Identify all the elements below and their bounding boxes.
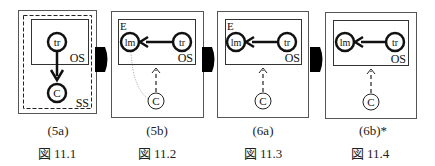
sublabel-5a: (5a) — [13, 124, 103, 137]
panel-6b: lm tr OS C — [326, 13, 417, 119]
svg-text:C: C — [367, 96, 374, 108]
svg-text:C: C — [152, 95, 159, 107]
diagram-canvas: tr OS C SS E lm tr OS C E lm tr — [0, 0, 435, 166]
figure-caption-11-4: 図 11.4 — [325, 147, 415, 160]
svg-text:SS: SS — [76, 96, 89, 110]
transition-arrow-3 — [310, 47, 323, 72]
panel-5b: E lm tr OS C — [112, 12, 204, 118]
svg-text:lm: lm — [340, 37, 351, 48]
svg-text:lm: lm — [125, 37, 136, 48]
svg-text:C: C — [53, 87, 60, 99]
svg-text:C: C — [259, 95, 266, 107]
figure-caption-11-3: 図 11.3 — [218, 147, 308, 160]
sublabel-6a: (6a) — [218, 124, 308, 137]
svg-text:OS: OS — [391, 52, 406, 66]
svg-text:tr: tr — [179, 37, 186, 48]
svg-text:OS: OS — [285, 51, 300, 65]
transition-arrow-1 — [95, 47, 108, 72]
figure-caption-11-2: 図 11.2 — [112, 147, 202, 160]
svg-text:tr: tr — [392, 37, 399, 48]
svg-text:E: E — [120, 20, 127, 32]
svg-text:OS: OS — [70, 51, 85, 65]
sublabel-5b: (5b) — [112, 124, 202, 137]
svg-text:lm: lm — [231, 37, 242, 48]
svg-text:tr: tr — [54, 36, 61, 48]
figure-caption-11-1: 図 11.1 — [12, 147, 102, 160]
sublabel-6b: (6b)* — [328, 124, 418, 137]
panel-5a: tr OS C SS — [19, 11, 97, 114]
transition-arrow-2 — [202, 47, 215, 72]
svg-text:OS: OS — [178, 51, 193, 65]
panel-6a: E lm tr OS C — [218, 12, 309, 118]
svg-text:tr: tr — [284, 37, 291, 48]
svg-text:E: E — [227, 20, 234, 32]
